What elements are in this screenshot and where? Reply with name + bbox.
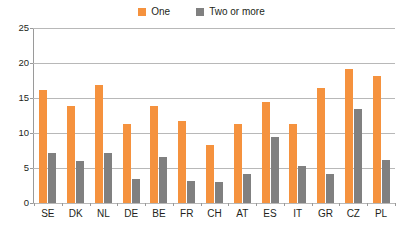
x-axis-tick-label-se: SE [34,208,62,224]
x-axis-tick-mark [117,203,118,206]
x-axis-tick-label-it: IT [284,208,312,224]
bar-two-or-more-it[interactable] [298,166,306,203]
bar-one-be[interactable] [150,106,158,203]
bar-group-gr [312,28,340,203]
bar-group-pl [367,28,395,203]
x-axis-tick-label-de: DE [117,208,145,224]
bar-two-or-more-pl[interactable] [382,160,390,203]
bar-group-it [284,28,312,203]
y-axis-tick-label: 25 [3,23,29,32]
x-axis-tick-mark [284,203,285,206]
x-axis-tick-label-ch: CH [201,208,229,224]
bar-one-es[interactable] [262,102,270,203]
x-axis-tick-mark [90,203,91,206]
y-axis-tick-label: 20 [3,58,29,67]
bar-two-or-more-de[interactable] [132,179,140,203]
bar-one-at[interactable] [234,124,242,203]
x-axis-tick-mark [201,203,202,206]
bar-two-or-more-at[interactable] [243,174,251,203]
legend-item-label: One [151,7,170,17]
square-swatch-icon [196,8,204,16]
y-axis: 0510152025 [0,0,29,239]
bar-one-ch[interactable] [206,145,214,203]
x-axis-labels: SEDKNLDEBEFRCHATESITGRCZPL [34,208,395,224]
x-axis-tick-mark [145,203,146,206]
bar-group-be [145,28,173,203]
x-axis-tick-mark [228,203,229,206]
x-axis-tick-mark [339,203,340,206]
bar-group-nl [90,28,118,203]
bar-chart: OneTwo or more 0510152025 SEDKNLDEBEFRCH… [0,0,403,239]
x-axis-tick-mark [62,203,63,206]
bar-group-cz [339,28,367,203]
bar-two-or-more-gr[interactable] [326,174,334,203]
bar-one-dk[interactable] [67,106,75,203]
bar-one-cz[interactable] [345,69,353,203]
legend-item-label: Two or more [209,7,265,17]
bar-one-fr[interactable] [178,121,186,203]
bar-one-gr[interactable] [317,88,325,203]
x-axis-tick-mark [395,203,396,206]
chart-legend: OneTwo or more [0,4,403,20]
bar-one-se[interactable] [39,90,47,203]
x-axis-tick-label-gr: GR [312,208,340,224]
legend-item-one[interactable]: One [138,7,170,17]
x-axis-tick-label-dk: DK [62,208,90,224]
y-axis-tick-label: 10 [3,128,29,137]
legend-item-two-or-more[interactable]: Two or more [196,7,265,17]
bar-two-or-more-be[interactable] [159,157,167,203]
bar-two-or-more-ch[interactable] [215,182,223,203]
x-axis-tick-label-pl: PL [367,208,395,224]
x-axis-tick-label-at: AT [228,208,256,224]
bar-one-nl[interactable] [95,85,103,203]
x-axis-tick-mark [312,203,313,206]
x-axis-tick-mark [34,203,35,206]
bar-two-or-more-dk[interactable] [76,161,84,203]
gridline [33,203,395,204]
bar-two-or-more-cz[interactable] [354,109,362,203]
x-axis-tick-label-cz: CZ [339,208,367,224]
bar-group-at [228,28,256,203]
bar-one-de[interactable] [123,124,131,203]
x-axis-tick-label-be: BE [145,208,173,224]
bar-group-es [256,28,284,203]
bar-group-ch [201,28,229,203]
bar-two-or-more-se[interactable] [48,153,56,203]
y-axis-tick-label: 0 [3,198,29,207]
bar-group-fr [173,28,201,203]
x-axis-tick-mark [367,203,368,206]
y-axis-tick-label: 5 [3,163,29,172]
x-axis-tick-label-nl: NL [90,208,118,224]
bar-two-or-more-nl[interactable] [104,153,112,203]
x-axis-tick-mark [256,203,257,206]
bar-one-it[interactable] [289,124,297,203]
bar-group-de [117,28,145,203]
bar-two-or-more-fr[interactable] [187,181,195,203]
x-axis-tick-mark [173,203,174,206]
bar-series-container [34,28,395,203]
x-axis-tick-label-es: ES [256,208,284,224]
bar-group-dk [62,28,90,203]
bar-group-se [34,28,62,203]
y-axis-tick-label: 15 [3,93,29,102]
x-axis-tick-label-fr: FR [173,208,201,224]
square-swatch-icon [138,8,146,16]
bar-two-or-more-es[interactable] [271,137,279,204]
bar-one-pl[interactable] [373,76,381,203]
